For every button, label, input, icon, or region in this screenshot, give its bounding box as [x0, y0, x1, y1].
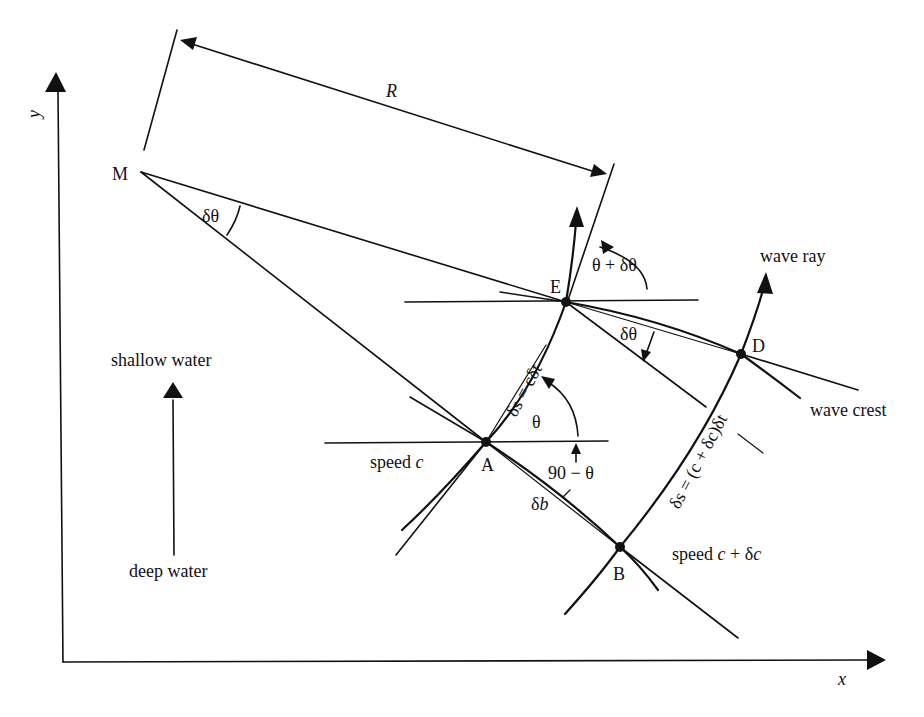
point-label-B: B — [613, 564, 625, 584]
radius-extension-line-left — [144, 30, 177, 150]
point-E-marker — [561, 297, 571, 307]
x-axis-label: x — [837, 669, 846, 689]
point-label-D: D — [752, 336, 765, 356]
radius-dimension: R — [144, 30, 614, 300]
speed-c-label: speed c — [370, 452, 423, 472]
wave-crest-upper: δθ — [500, 292, 858, 407]
crest-curve-beyond-D — [741, 354, 800, 398]
angle-arc-theta — [548, 382, 578, 436]
deep-water-label: deep water — [129, 561, 207, 581]
wave-crest-label: wave crest — [810, 400, 886, 420]
point-label-A: A — [481, 455, 494, 475]
theta-label: θ — [532, 412, 541, 432]
depth-arrowhead-icon — [163, 382, 183, 398]
point-label-M: M — [112, 164, 128, 184]
ray-curve-B-D — [565, 290, 763, 614]
x-axis — [63, 660, 868, 662]
radius-dimension-line — [192, 44, 592, 171]
radial-line-M-A — [141, 172, 486, 442]
point-B-marker — [615, 542, 625, 552]
wave-ray-arrowhead-icon — [757, 272, 773, 294]
ds-c-dc-dt-label: δs = (c + δc)δt — [665, 411, 732, 512]
wave-refraction-diagram: y x R M δθ δθ δb — [0, 0, 924, 717]
crest-chord-A-B — [486, 442, 620, 547]
point-D-marker — [736, 349, 746, 359]
wave-ray-left: δs = cδt θ 90 − θ θ + δθ — [396, 206, 647, 555]
depth-indicator: shallow water deep water — [111, 350, 211, 581]
delta-b-label: δb — [531, 494, 548, 514]
horizontal-reference-A — [325, 441, 608, 443]
delta-theta-arrow-E — [646, 332, 654, 354]
x-axis-arrowhead-icon — [867, 650, 886, 670]
ninety-minus-theta-arrowhead-icon — [571, 443, 581, 454]
delta-theta-label-E: δθ — [620, 324, 637, 344]
y-axis — [58, 92, 63, 662]
shallow-water-label: shallow water — [111, 350, 211, 370]
delta-b-tick — [563, 490, 570, 497]
y-axis-arrowhead-icon — [45, 72, 66, 92]
crest-curve-beyond-B — [620, 547, 658, 590]
point-label-E: E — [550, 277, 561, 297]
angle-arc-delta-theta-M — [227, 206, 240, 235]
crest-tangent-A-back — [410, 397, 486, 442]
radius-label: R — [385, 81, 397, 101]
radius-arrowhead-right-icon — [590, 164, 607, 177]
wave-crest-lower: δb — [410, 397, 738, 638]
radius-arrowhead-left-icon — [180, 37, 197, 50]
wave-ray-label: wave ray — [760, 246, 825, 266]
ray-chord-tick-D — [738, 434, 763, 453]
point-A-marker — [481, 437, 491, 447]
radial-line-M-E — [141, 172, 566, 302]
delta-theta-label-M: δθ — [202, 206, 219, 226]
axes: y x — [24, 72, 886, 689]
crest-chord-E-D — [566, 302, 741, 354]
y-axis-label: y — [24, 110, 44, 120]
ninety-minus-theta-label: 90 − θ — [548, 463, 594, 483]
ray-arrowhead-E-icon — [569, 206, 584, 227]
crest-tangent-D — [741, 354, 858, 390]
theta-plus-delta-label: θ + δθ — [592, 255, 637, 275]
theta-arrowhead-icon — [541, 376, 555, 389]
depth-arrow-line — [173, 400, 174, 555]
speed-c-dc-label: speed c + δc — [672, 544, 761, 564]
center-of-curvature: M δθ — [112, 164, 566, 442]
